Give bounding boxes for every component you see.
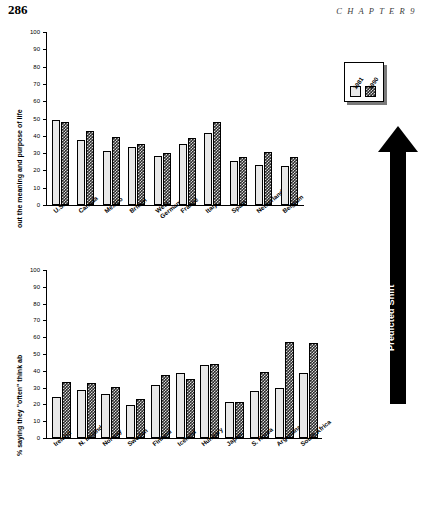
plot-area-top: 0102030405060708090100U.S.CanadaMexicoBr… [44,28,304,224]
bar [103,151,111,205]
y-axis-tick [43,304,46,305]
bar [52,397,61,438]
legend-label-1981: 1981 [352,76,365,90]
y-axis-tick-label: 70 [18,81,40,87]
bar [128,147,136,205]
y-axis-tick [43,32,46,33]
y-axis-tick [43,205,46,206]
arrow-head-icon [378,126,418,152]
chart-bottom: 0102030405060708090100IrelandN. IrelandN… [44,268,322,454]
page-number: 286 [8,2,28,18]
y-axis-tick [43,438,46,439]
bar [154,156,162,205]
y-axis-tick [43,270,46,271]
bar [126,405,135,438]
running-head: C H A P T E R 9 [336,6,416,16]
predicted-shift-label: Predicted Shift [386,284,396,351]
y-axis-tick [43,170,46,171]
y-axis-tick-label: 80 [18,64,40,70]
bar [225,402,234,438]
y-axis-tick [43,101,46,102]
y-axis-tick [43,136,46,137]
y-axis-tick-label: 60 [18,334,40,340]
y-axis-tick [43,404,46,405]
bar [137,144,145,205]
bar [200,365,209,438]
y-axis-tick [43,119,46,120]
bar [281,166,289,205]
bar [230,161,238,205]
chart-top: 0102030405060708090100U.S.CanadaMexicoBr… [44,28,304,224]
legend: 1981 1990 [344,62,384,102]
arrow-shaft [390,151,406,404]
y-axis-tick [43,287,46,288]
y-axis-line [46,32,47,206]
bar [176,373,185,438]
bar [204,133,212,205]
predicted-shift-arrow: Predicted Shift [378,126,418,404]
bar [179,144,187,205]
y-axis-tick [43,371,46,372]
y-axis-tick-label: 60 [18,98,40,104]
bar [285,342,294,438]
y-axis-tick-label: 70 [18,317,40,323]
bar [77,390,86,438]
y-axis-line [46,270,47,439]
bar [61,122,69,205]
y-axis-title-top: out the meaning and purpose of life [16,109,23,228]
bar [250,391,259,438]
bar [101,394,110,438]
y-axis-tick [43,337,46,338]
bar [151,385,160,438]
y-axis-title-bottom: % saying they "often" think ab [16,355,23,456]
y-axis-tick-label: 100 [18,29,40,35]
y-axis-tick [43,67,46,68]
bar [299,373,308,438]
legend-label-1990: 1990 [367,76,380,90]
bar [275,388,284,438]
y-axis-tick-label: 80 [18,301,40,307]
bar [255,165,263,205]
y-axis-tick [43,153,46,154]
bar [213,122,221,205]
y-axis-tick [43,320,46,321]
y-axis-tick [43,421,46,422]
y-axis-tick-label: 100 [18,267,40,273]
page-header: 286 C H A P T E R 9 [0,0,426,24]
y-axis-tick [43,354,46,355]
y-axis-tick-label: 90 [18,284,40,290]
y-axis-tick [43,388,46,389]
y-axis-tick [43,84,46,85]
y-axis-tick [43,188,46,189]
bar [77,140,85,205]
y-axis-tick-label: 90 [18,46,40,52]
bar [52,120,60,205]
bar [309,343,318,438]
plot-area-bottom: 0102030405060708090100IrelandN. IrelandN… [44,268,322,454]
y-axis-tick [43,49,46,50]
